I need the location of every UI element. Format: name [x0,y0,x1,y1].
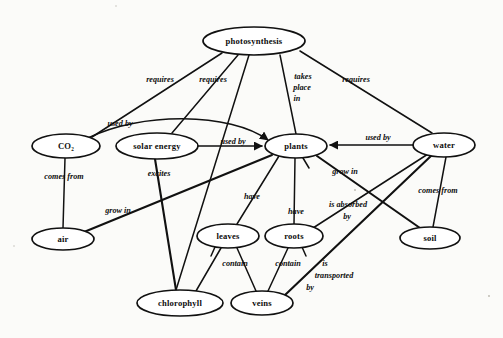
node-label-soil: soil [423,233,437,243]
edge-label-layer: requires requires requires takes place i… [44,72,457,292]
edge-label-is-transported-line3: by [306,283,314,292]
edge-leaves-chlorophyll [196,248,221,291]
edge-label-grow-in-1: grow in [104,206,131,215]
edge-label-is-absorbed-line2: by [343,212,351,221]
edge-leaves-veins [237,248,256,291]
edge-stub-leaves-left [211,247,215,256]
edge-label-contain-2: contain [275,259,301,268]
node-photosynthesis[interactable]: photosynthesis [203,27,305,55]
node-air[interactable]: air [32,228,94,250]
concept-map-svg: requires requires requires takes place i… [0,0,503,338]
node-layer: photosynthesis CO₂ solar energy plants w… [32,27,475,316]
edge-label-have-1: have [244,192,260,201]
edge-label-used-by-1: used by [107,119,133,128]
edge-label-requires-1: requires [146,75,174,84]
concept-map-canvas: requires requires requires takes place i… [0,0,503,338]
node-label-water: water [433,140,455,150]
edge-label-used-by-2: used by [220,137,246,146]
edge-label-requires-3: requires [342,75,370,84]
node-soil[interactable]: soil [400,227,460,249]
node-chlorophyll[interactable]: chlorophyll [137,290,223,316]
edge-label-grow-in-2: grow in [331,167,358,176]
node-veins[interactable]: veins [231,291,293,315]
edge-solar-energy-chlorophyll [155,159,176,290]
node-label-solar-energy: solar energy [133,141,181,151]
edge-label-is-transported-line2: transported [315,271,355,280]
node-water[interactable]: water [413,133,475,157]
node-label-leaves: leaves [216,231,240,241]
edge-label-excites: excites [148,169,171,178]
node-roots[interactable]: roots [265,224,323,248]
edge-label-used-by-3: used by [365,133,391,142]
edge-layer [63,51,446,295]
node-label-photosynthesis: photosynthesis [226,36,283,46]
node-label-plants: plants [284,141,308,151]
edge-roots-veins [268,248,288,291]
edge-photosynthesis-chlorophyll [176,55,249,290]
node-label-air: air [57,234,68,244]
edge-label-contain-1: contain [222,259,248,268]
edge-label-requires-2: requires [199,75,227,84]
edge-label-takes-place-in-line3: in [294,94,301,103]
node-label-co2: CO₂ [58,141,74,151]
edge-stub-plants-bottom [303,158,309,168]
node-leaves[interactable]: leaves [197,224,259,248]
edge-label-is-transported-line1: is [322,259,327,268]
edge-co2-air [63,158,65,228]
node-label-veins: veins [252,298,272,308]
node-label-chlorophyll: chlorophyll [158,298,202,308]
edge-label-takes-place-in-line2: place [292,83,311,92]
node-co2[interactable]: CO₂ [32,134,100,158]
edge-label-is-absorbed-line1: is absorbed [329,200,368,209]
edge-label-comes-from-1: comes from [44,172,83,181]
node-plants[interactable]: plants [265,134,327,158]
edge-label-takes-place-in-line1: takes [294,72,311,81]
edge-label-comes-from-2: comes from [418,186,457,195]
edge-label-have-2: have [288,207,304,216]
edge-photosynthesis-water [300,51,432,133]
node-solar-energy[interactable]: solar energy [116,133,198,159]
node-label-roots: roots [284,231,304,241]
